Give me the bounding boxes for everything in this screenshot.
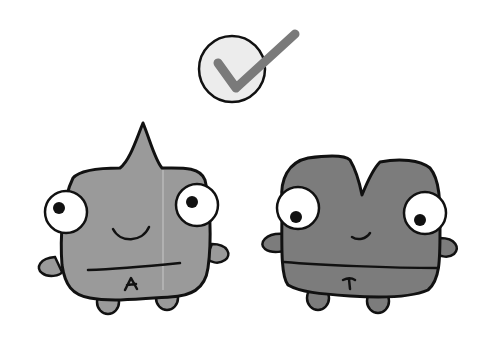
- check-circle-icon: [199, 34, 295, 102]
- scene: [0, 0, 488, 343]
- monster-a: [39, 123, 228, 314]
- monster-t: [262, 156, 456, 313]
